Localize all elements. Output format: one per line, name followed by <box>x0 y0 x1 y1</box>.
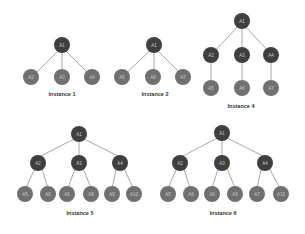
instance-caption: Instance 4 <box>228 103 256 109</box>
node-label: A2 <box>28 75 34 80</box>
node-label: A2 <box>208 53 214 58</box>
node-label: A7 <box>180 75 186 80</box>
node-label: A10 <box>277 192 286 197</box>
node-label: A6 <box>45 192 51 197</box>
node-label: A1 <box>219 131 225 136</box>
instance-caption: Instance 1 <box>49 91 76 97</box>
instance-5-tree: A1 A2 A3 A4 A5 A6 A6 A8 A9 A10 Instance … <box>17 126 142 216</box>
node-label: A4 <box>89 75 95 80</box>
edge <box>226 166 235 188</box>
node-label: A5 <box>208 86 214 91</box>
node-label: A6 <box>64 192 70 197</box>
node-label: A10 <box>130 192 139 197</box>
edge <box>80 137 120 157</box>
node-label: A3 <box>239 53 245 58</box>
node-label: A4 <box>268 53 274 58</box>
diagram-canvas: A1 A2 A3 A4 Instance 1 A1 A5 A6 A7 Insta… <box>0 0 305 234</box>
node-label: A7 <box>254 192 260 197</box>
node-label: A3 <box>219 161 225 166</box>
node-label: A6 <box>209 192 215 197</box>
node-label: A1 <box>151 43 157 48</box>
node-label: A9 <box>232 192 238 197</box>
edge <box>181 136 221 157</box>
edge <box>39 137 78 157</box>
node-label: A1 <box>59 43 65 48</box>
instance-caption: Instance 6 <box>210 210 237 216</box>
instance-caption: Instance 5 <box>67 210 94 216</box>
instance-6-tree: A1 A2 A3 A4 A5 A6 A6 A9 A7 A10 Instance … <box>160 125 289 216</box>
node-label: A4 <box>262 161 268 166</box>
node-label: A9 <box>109 192 115 197</box>
node-label: A7 <box>268 86 274 91</box>
node-label: A8 <box>88 192 94 197</box>
node-label: A2 <box>177 161 183 166</box>
node-label: A6 <box>239 86 245 91</box>
instance-caption: Instance 2 <box>142 91 169 97</box>
node-label: A5 <box>119 75 125 80</box>
instance-1-tree: A1 A2 A3 A4 Instance 1 <box>23 37 100 97</box>
node-label: A3 <box>76 161 82 166</box>
node-label: A3 <box>59 75 65 80</box>
node-label: A5 <box>22 192 28 197</box>
instance-2-tree: A1 A5 A6 A7 Instance 2 <box>114 37 191 97</box>
node-label: A6 <box>188 192 194 197</box>
instance-4-tree: A1 A2 A3 A4 A5 A6 A7 Instance 4 <box>203 13 279 109</box>
node-label: A6 <box>150 75 156 80</box>
node-label: A5 <box>165 192 171 197</box>
edge <box>223 136 265 157</box>
node-label: A4 <box>117 161 123 166</box>
node-label: A1 <box>76 132 82 137</box>
node-label: A2 <box>35 161 41 166</box>
node-label: A1 <box>239 19 245 24</box>
